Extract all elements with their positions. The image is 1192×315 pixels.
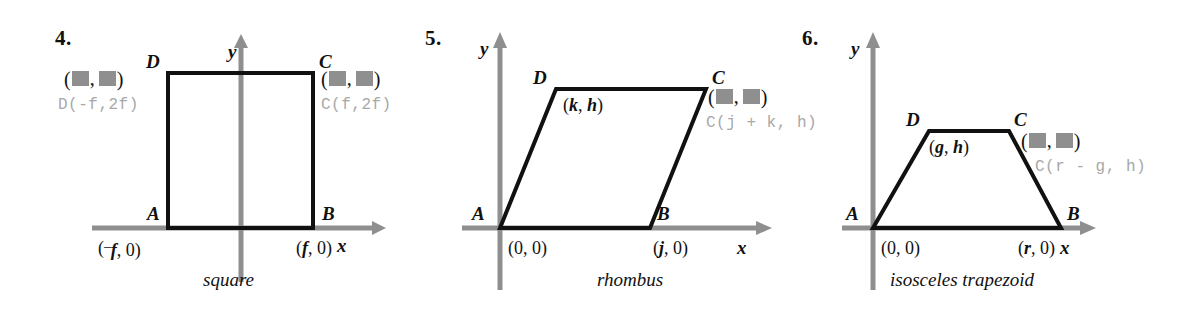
problem-5-x-axis-label: x (737, 237, 747, 259)
problem-4-answer-C: C(f,2f) (321, 96, 392, 114)
problem-4-caption: square (203, 269, 254, 291)
comma: , (734, 85, 739, 108)
problem-5-vertex-D: D (533, 67, 547, 89)
redaction-block (1029, 133, 1046, 148)
problem-5-coord-A: (0, 0) (508, 238, 547, 259)
problem-6-x-axis-label: x (1060, 237, 1070, 259)
comma: , (1047, 129, 1052, 152)
problem-6-y-axis-label: y (851, 38, 859, 60)
problem-4-coord-A: –f, 0) (104, 238, 141, 261)
redaction-block (329, 71, 346, 86)
problem-6-vertex-C: C (1014, 109, 1027, 131)
problem-5-coord-B: (j, 0) (653, 238, 688, 259)
problem-5-vertex-A: A (472, 203, 485, 225)
paren-open: ( (64, 69, 71, 89)
redaction-block (716, 89, 733, 104)
problem-5-coord-D: (k, h) (563, 95, 603, 116)
problem-6-caption: isosceles trapezoid (890, 269, 1034, 291)
paren-close: ) (761, 87, 768, 107)
problem-4-redacted-D: (,) (64, 67, 123, 90)
problem-5-graph (400, 0, 790, 315)
problem-5-caption: rhombus (597, 269, 663, 291)
problem-4-vertex-D: D (146, 51, 160, 73)
redaction-block (356, 71, 373, 86)
problem-6-figure: 6. y x D C A B (g, h) (0, 0) (r, 0) (,) … (790, 0, 1192, 315)
problem-4-vertex-A: A (147, 203, 160, 225)
redaction-block (1056, 133, 1073, 148)
problem-6-vertex-B: B (1067, 203, 1080, 225)
problem-4-vertex-B: B (322, 203, 335, 225)
redaction-block (99, 71, 116, 86)
paren-open: ( (708, 87, 715, 107)
problem-4-coord-B: (f, 0) (296, 238, 332, 259)
paren-open: ( (321, 69, 328, 89)
problem-4-redacted-C: (,) (321, 67, 380, 90)
problem-5-redacted-C: (,) (708, 85, 767, 108)
paren-close: ) (374, 69, 381, 89)
comma: , (347, 67, 352, 90)
problem-6-coord-A: (0, 0) (881, 238, 920, 259)
y-axis (493, 32, 507, 290)
comma: , (90, 67, 95, 90)
problem-6-number: 6. (802, 26, 819, 51)
y-axis (866, 32, 880, 290)
paren-close: ) (117, 69, 124, 89)
problem-4-figure: 4. y x D C A B –f, 0) ( (f, 0) (,) (,) D… (0, 0, 400, 315)
problem-4-answer-D: D(-f,2f) (58, 96, 139, 114)
redaction-block (743, 89, 760, 104)
problem-6-vertex-A: A (846, 203, 859, 225)
redaction-block (72, 71, 89, 86)
problem-5-y-axis-label: y (480, 38, 488, 60)
coordinate-geometry-worksheet: 4. y x D C A B –f, 0) ( (f, 0) (,) (,) D… (0, 0, 1192, 315)
problem-5-figure: 5. y x D C A B (k, h) (0, 0) (j, 0) (,) … (400, 0, 790, 315)
problem-4-x-axis-label: x (337, 235, 347, 257)
problem-6-vertex-D: D (906, 109, 920, 131)
problem-6-coord-D: (g, h) (929, 137, 969, 158)
problem-5-vertex-B: B (657, 203, 670, 225)
problem-4-number: 4. (55, 26, 72, 51)
problem-5-number: 5. (425, 26, 442, 51)
paren-close: ) (1074, 131, 1081, 151)
problem-6-coord-B: (r, 0) (1018, 238, 1055, 259)
problem-4-y-axis-label: y (228, 41, 236, 63)
problem-4-coord-A-paren: ( (98, 238, 104, 259)
problem-6-redacted-C: (,) (1021, 129, 1080, 152)
problem-6-answer-C: C(r - g, h) (1035, 158, 1146, 176)
paren-open: ( (1021, 131, 1028, 151)
